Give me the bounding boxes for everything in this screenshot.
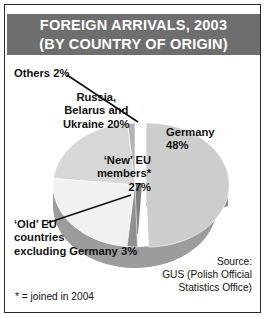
label-russia-line-1: Russia, bbox=[63, 91, 130, 104]
chart-title-line-2: (BY COUNTRY OF ORIGIN) bbox=[7, 35, 260, 54]
label-germany-line-1: Germany bbox=[166, 126, 215, 139]
chart-card: FOREIGN ARRIVALS, 2003 (BY COUNTRY OF OR… bbox=[4, 4, 261, 313]
chart-title-band: FOREIGN ARRIVALS, 2003 (BY COUNTRY OF OR… bbox=[7, 14, 260, 55]
label-russia-line-2: Belarus and bbox=[63, 104, 130, 117]
label-new-eu-line-2: members* bbox=[53, 167, 151, 180]
label-germany: Germany 48% bbox=[166, 126, 215, 153]
label-new-eu-line-3: 27% bbox=[53, 181, 151, 194]
label-germany-line-2: 48% bbox=[166, 139, 215, 152]
label-old-eu-line-2: countries bbox=[14, 231, 137, 244]
label-old-eu-countries: ‘Old’ EU countries excluding Germany 3% bbox=[14, 218, 137, 258]
label-others: Others 2% bbox=[14, 67, 69, 80]
source-line-3: Statistics Office) bbox=[112, 281, 252, 294]
label-new-eu-line-1: ‘New’ EU bbox=[53, 154, 151, 167]
label-old-eu-line-1: ‘Old’ EU bbox=[14, 218, 137, 231]
source-line-2: GUS (Polish Official bbox=[112, 268, 252, 281]
label-others-text: Others 2% bbox=[14, 67, 69, 80]
label-new-eu-members: ‘New’ EU members* 27% bbox=[53, 154, 151, 194]
pie-chart-area: Others 2% Russia, Belarus and Ukraine 20… bbox=[5, 55, 260, 312]
source-line-1: Source: bbox=[112, 255, 252, 268]
chart-title-line-1: FOREIGN ARRIVALS, 2003 bbox=[7, 16, 260, 35]
chart-footnote: * = joined in 2004 bbox=[15, 291, 94, 302]
chart-source: Source: GUS (Polish Official Statistics … bbox=[112, 255, 252, 294]
label-russia-line-3: Ukraine 20% bbox=[63, 118, 130, 131]
label-russia-belarus-ukraine: Russia, Belarus and Ukraine 20% bbox=[63, 91, 130, 131]
